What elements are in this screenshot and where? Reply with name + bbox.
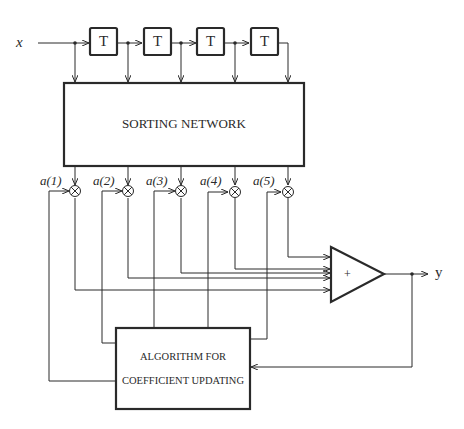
coefficient-text-5: a(5) (253, 173, 275, 188)
coefficient-text-4: a(4) (200, 173, 222, 188)
diagram-canvas: x y T T T T SORTING NETWORK a(1) a(2) a(… (0, 0, 464, 429)
output-label-y: y (435, 265, 443, 280)
multiplier-1 (70, 186, 81, 197)
coefficient-label-2: a(2) (93, 174, 115, 187)
coefficient-text-2: a(2) (93, 173, 115, 188)
coefficient-update-block (116, 328, 250, 409)
coefficient-label-5: a(5) (253, 174, 275, 187)
coefficient-text-3: a(3) (146, 173, 168, 188)
summer-triangle (331, 247, 384, 302)
coefficient-label-1: a(1) (40, 174, 62, 187)
update-block-line2: COEFFICIENT UPDATING (116, 376, 250, 387)
delay-label-2: T (144, 34, 171, 49)
multiplier-5 (283, 187, 294, 198)
multiplier-3 (176, 186, 187, 197)
multiplier-2 (123, 186, 134, 197)
coefficient-label-4: a(4) (200, 174, 222, 187)
delay-label-3: T (197, 34, 224, 49)
coefficient-label-3: a(3) (146, 174, 168, 187)
summer-plus-label: + (344, 268, 351, 280)
input-label-x: x (16, 35, 23, 50)
diagram-wires (0, 0, 464, 429)
sorting-network-label: SORTING NETWORK (64, 117, 304, 130)
update-block-line1: ALGORITHM FOR (116, 352, 250, 363)
delay-label-4: T (251, 34, 278, 49)
coefficient-text-1: a(1) (40, 173, 62, 188)
delay-label-1: T (90, 34, 117, 49)
multiplier-4 (230, 187, 241, 198)
